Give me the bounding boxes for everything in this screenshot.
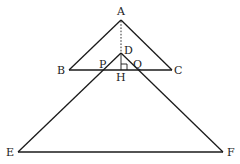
label-D: D: [124, 44, 133, 57]
label-A: A: [116, 5, 126, 18]
label-Q: Q: [133, 58, 142, 71]
right-angle-marker: [121, 64, 127, 70]
label-B: B: [57, 64, 65, 77]
segment-AB: [69, 20, 121, 70]
geometry-diagram: A B C D E F P Q H: [0, 0, 240, 164]
label-E: E: [6, 146, 14, 159]
label-H: H: [116, 71, 126, 84]
label-C: C: [174, 64, 182, 77]
label-P: P: [99, 58, 107, 71]
label-F: F: [227, 146, 235, 159]
